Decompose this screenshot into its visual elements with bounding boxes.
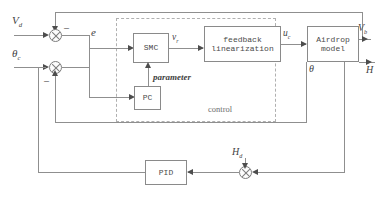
sum-velocity-output-wire [62, 35, 90, 36]
error-bus-wire [89, 48, 131, 49]
airdrop-model-label-line1: Airdrop [316, 35, 350, 44]
altitude-error-wire [188, 172, 239, 173]
velocity-output-label: Vb [358, 22, 367, 35]
error-to-pc-wire [89, 97, 131, 98]
pid-block-label: PID [159, 168, 173, 177]
sum-theta-output-wire [62, 67, 90, 68]
theta-feedback-minus-sign: – [44, 76, 49, 86]
control-group-label: control [208, 104, 232, 114]
parameter-wire [148, 66, 149, 86]
parameter-arrowhead [145, 62, 151, 68]
velocity-reference-wire [14, 35, 45, 36]
velocity-reference-symbol: V [12, 14, 19, 26]
altitude-feedback-arrowhead [252, 169, 258, 175]
pid-block[interactable]: PID [145, 160, 187, 185]
velocity-output-arrowhead [362, 36, 368, 42]
altitude-feedback-return-wire [254, 172, 345, 173]
altitude-output-label: H [366, 64, 373, 75]
theta-feedback-up-wire [55, 74, 56, 122]
pc-block[interactable]: PC [134, 86, 161, 110]
smc-block-label: SMC [144, 43, 158, 52]
block-diagram-canvas: control Vd θc – – e SMC vr feedback [0, 0, 380, 209]
theta-reference-label: θc [12, 47, 20, 61]
velocity-feedback-top-wire [55, 12, 363, 13]
pid-output-up-wire [38, 67, 39, 172]
error-signal-label: e [91, 26, 96, 38]
velocity-feedback-minus-sign: – [64, 23, 69, 33]
sum-velocity-down-wire [89, 35, 90, 48]
feedback-linearization-block[interactable]: feedback linearization [204, 26, 281, 62]
feedback-linearization-label-line2: linearization [211, 44, 273, 53]
theta-feedback-return-wire [55, 122, 307, 123]
uc-signal-label: uc [283, 28, 290, 40]
velocity-reference-subscript: d [19, 21, 22, 28]
airdrop-model-block[interactable]: Airdrop model [307, 26, 359, 62]
summing-junction-velocity [49, 29, 62, 42]
velocity-output-subscript: b [364, 28, 367, 35]
theta-feedback-tap [306, 62, 307, 122]
altitude-error-arrowhead [187, 169, 193, 175]
vr-subscript: r [176, 38, 178, 44]
pid-output-wire [38, 172, 145, 173]
smc-block[interactable]: SMC [133, 33, 169, 63]
uc-subscript: c [288, 34, 291, 40]
altitude-reference-arrowhead [242, 163, 248, 169]
parameter-label: parameter [153, 72, 191, 82]
altitude-reference-subscript: d [239, 152, 242, 159]
feedback-linearization-label-line1: feedback [223, 35, 261, 44]
theta-output-label: θ [309, 63, 314, 74]
pid-into-sum-wire [38, 67, 46, 68]
theta-reference-subscript: c [17, 54, 20, 61]
error-branch-to-pc-wire [89, 48, 90, 98]
velocity-reference-label: Vd [12, 14, 22, 28]
altitude-reference-label: Hd [232, 146, 242, 159]
airdrop-model-label-line2: model [321, 44, 345, 53]
vr-signal-label: vr [172, 32, 179, 44]
altitude-feedback-drop [344, 62, 345, 172]
pc-block-label: PC [143, 93, 153, 102]
theta-feedback-arrowhead [52, 70, 58, 76]
